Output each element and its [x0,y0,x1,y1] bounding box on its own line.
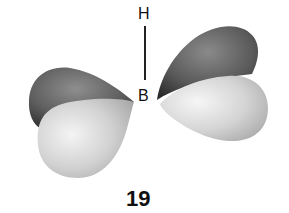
h-b-bond-line [144,26,146,80]
orbital-diagram: H B 19 [0,0,289,213]
figure-number: 19 [126,188,150,210]
left-front-lobe [38,99,134,178]
hydrogen-atom-label: H [138,6,150,22]
boron-atom-label: B [138,88,149,104]
